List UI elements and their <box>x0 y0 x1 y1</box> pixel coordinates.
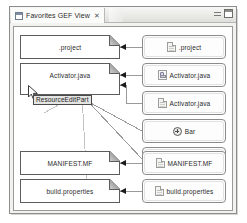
node-label: Activator.java <box>170 100 211 107</box>
tab-slant-decoration <box>109 8 123 22</box>
node-label: MANIFEST.MF <box>168 160 213 167</box>
maximize-icon[interactable] <box>224 9 233 18</box>
edge-activator-java-2 <box>120 85 142 103</box>
favorites-gef-view-window: Favorites GEF View ✕ <box>9 6 237 214</box>
node-label: MANIFEST.MF <box>48 160 93 167</box>
file-icon <box>167 42 176 52</box>
close-icon[interactable]: ✕ <box>94 12 100 19</box>
minimize-icon[interactable] <box>214 11 221 17</box>
folded-corner-icon <box>109 63 120 74</box>
node-favorite-manifest[interactable]: MANIFEST.MF <box>142 151 226 175</box>
node-label: build.properties <box>167 188 214 195</box>
arrowhead-build <box>120 188 126 194</box>
folded-corner-icon <box>109 35 120 46</box>
node-project-resource[interactable]: .project <box>20 35 120 59</box>
node-favorite-bar[interactable]: Bar <box>142 119 226 143</box>
arrowhead-project <box>120 44 126 50</box>
node-build-properties-resource[interactable]: build.properties <box>20 179 120 203</box>
tab-favorites-gef-view[interactable]: Favorites GEF View ✕ <box>11 8 105 23</box>
node-label: build.properties <box>47 188 94 195</box>
node-manifest-resource[interactable]: MANIFEST.MF <box>20 151 120 175</box>
file-icon <box>155 186 164 196</box>
node-label: Bar <box>185 128 196 135</box>
arrowhead-activator-1 <box>120 72 126 78</box>
arrowhead-manifest <box>120 160 126 166</box>
node-favorite-activator-java-type[interactable]: Activator.java <box>142 63 226 87</box>
node-favorite-activator-java-file[interactable]: Activator.java <box>142 91 226 115</box>
tooltip: ResourceEditPart <box>33 95 92 105</box>
view-tab-bar: Favorites GEF View ✕ <box>10 7 236 23</box>
file-icon <box>156 158 165 168</box>
view-icon <box>15 12 23 20</box>
tooltip-label: ResourceEditPart <box>36 96 89 103</box>
node-activator-resource[interactable]: Activator.java <box>20 63 120 95</box>
java-file-icon <box>158 70 167 80</box>
class-icon <box>173 127 182 136</box>
node-favorite-project[interactable]: .project <box>142 35 226 59</box>
node-favorite-build-properties[interactable]: build.properties <box>142 179 226 203</box>
node-label: Activator.java <box>50 72 91 79</box>
arrowhead-activator-2 <box>120 82 126 88</box>
node-label: .project <box>59 44 82 51</box>
node-label: .project <box>179 44 202 51</box>
node-label: Activator.java <box>170 72 211 79</box>
tab-label: Favorites GEF View <box>26 12 90 19</box>
folded-corner-icon <box>109 179 120 190</box>
view-window-controls <box>214 9 233 18</box>
file-icon <box>158 98 167 108</box>
gef-diagram-canvas[interactable]: .project Activator.java MANIFEST.MF buil… <box>13 26 233 211</box>
screenshot-root: Favorites GEF View ✕ <box>0 0 247 223</box>
folded-corner-icon <box>109 151 120 162</box>
